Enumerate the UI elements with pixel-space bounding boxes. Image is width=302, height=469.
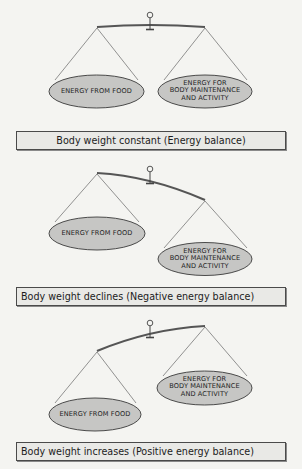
- string: [55, 28, 97, 80]
- caption-text: Body weight constant (Energy balance): [17, 132, 285, 149]
- string: [164, 201, 205, 248]
- beam: [97, 25, 205, 27]
- beam: [97, 173, 205, 200]
- string: [97, 28, 138, 80]
- right-pan-label: ENERGY FOR BODY MAINTENANCE AND ACTIVITY: [157, 376, 252, 398]
- hanger-ring: [147, 320, 153, 326]
- right-pan-label: ENERGY FOR BODY MAINTENANCE AND ACTIVITY: [158, 248, 252, 270]
- hanger-ring: [147, 12, 153, 18]
- caption-positive: Body weight increases (Positive energy b…: [16, 442, 286, 461]
- caption-balance: Body weight constant (Energy balance): [16, 131, 286, 150]
- string: [205, 28, 247, 80]
- label-line: AND ACTIVITY: [157, 391, 252, 398]
- string: [97, 174, 139, 222]
- string: [55, 174, 97, 222]
- string: [97, 352, 136, 403]
- string: [55, 352, 97, 403]
- string: [164, 28, 205, 80]
- caption-negative: Body weight declines (Negative energy ba…: [16, 287, 286, 306]
- right-pan-label: ENERGY FOR BODY MAINTENANCE AND ACTIVITY: [158, 80, 252, 102]
- hanger-ring: [147, 166, 153, 172]
- caption-text: Body weight increases (Positive energy b…: [17, 443, 285, 460]
- string: [205, 327, 247, 376]
- string: [205, 201, 247, 248]
- string: [163, 327, 205, 376]
- caption-text: Body weight declines (Negative energy ba…: [17, 288, 285, 305]
- left-pan-label: ENERGY FROM FOOD: [49, 411, 141, 418]
- beam: [97, 326, 205, 351]
- label-line: AND ACTIVITY: [158, 263, 252, 270]
- left-pan-label: ENERGY FROM FOOD: [49, 230, 145, 237]
- left-pan-label: ENERGY FROM FOOD: [49, 88, 144, 95]
- label-line: AND ACTIVITY: [158, 95, 252, 102]
- energy-balance-diagram: [0, 0, 302, 469]
